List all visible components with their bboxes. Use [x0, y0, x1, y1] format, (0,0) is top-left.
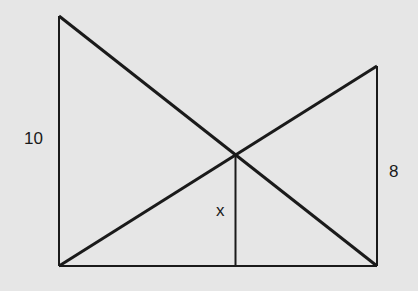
crossed-ladders-diagram: [0, 0, 418, 291]
label-x: x: [216, 201, 225, 221]
label-right-height: 8: [389, 162, 398, 182]
label-left-height: 10: [24, 129, 43, 149]
diagonal-left-bottom-to-right-top: [59, 66, 377, 266]
diagonal-left-top-to-right-bottom: [59, 16, 377, 266]
